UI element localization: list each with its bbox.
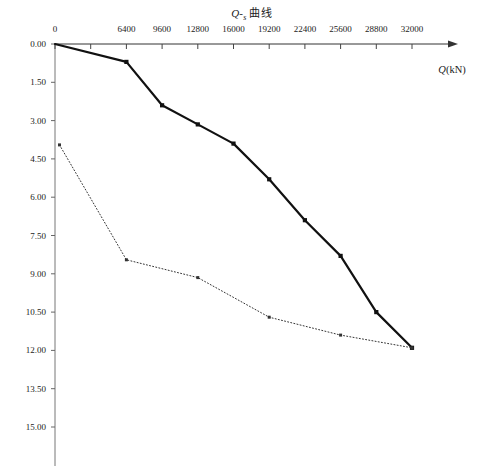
y-tick-label: 13.50 <box>0 384 46 394</box>
series-line-1 <box>60 145 413 348</box>
x-tick-label: 9600 <box>153 24 171 34</box>
chart-container: Q-s 曲线 064009600128001600019200224002560… <box>0 0 503 475</box>
y-tick-label: 1.50 <box>0 77 46 87</box>
x-tick-label: 16000 <box>222 24 245 34</box>
data-point-marker <box>196 122 200 126</box>
data-point-marker <box>125 258 128 261</box>
x-tick-label: 6400 <box>117 24 135 34</box>
data-point-marker <box>411 346 414 349</box>
data-point-marker <box>160 103 164 107</box>
data-point-marker <box>124 60 128 64</box>
x-tick-label: 0 <box>53 24 58 34</box>
y-tick-label: 4.50 <box>0 154 46 164</box>
data-point-marker <box>267 177 271 181</box>
data-point-marker <box>374 310 378 314</box>
x-tick-label: 12800 <box>187 24 210 34</box>
data-point-marker <box>339 254 343 258</box>
x-tick-label: 19200 <box>258 24 281 34</box>
data-point-marker <box>58 143 61 146</box>
y-tick-label: 10.50 <box>0 307 46 317</box>
x-tick-label: 25600 <box>329 24 352 34</box>
data-point-marker <box>231 142 235 146</box>
data-point-marker <box>268 316 271 319</box>
series-line-0 <box>55 44 412 348</box>
x-tick-label: 28800 <box>365 24 388 34</box>
data-series-layer <box>55 44 414 350</box>
y-tick-label: 15.00 <box>0 422 46 432</box>
x-axis-title-unit: (kN) <box>446 64 466 75</box>
y-tick-label: 3.00 <box>0 116 46 126</box>
x-tick-label: 32000 <box>401 24 424 34</box>
data-point-marker <box>339 334 342 337</box>
x-axis-title: Q(kN) <box>438 64 465 75</box>
y-tick-label: 12.00 <box>0 345 46 355</box>
y-tick-label: 9.00 <box>0 269 46 279</box>
x-axis-ticks <box>55 44 412 49</box>
data-point-marker <box>303 218 307 222</box>
y-tick-label: 0.00 <box>0 39 46 49</box>
y-tick-label: 7.50 <box>0 231 46 241</box>
x-axis-title-symbol: Q <box>438 64 446 75</box>
x-tick-label: 22400 <box>294 24 317 34</box>
y-axis-ticks <box>51 44 55 427</box>
x-axis-arrow <box>448 41 458 48</box>
plot-area <box>0 0 503 475</box>
y-tick-label: 6.00 <box>0 192 46 202</box>
data-point-marker <box>196 276 199 279</box>
